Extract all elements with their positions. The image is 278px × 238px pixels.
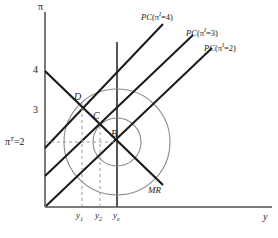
pc-curve-label-2: PC(πI=2): [204, 43, 236, 52]
x-tick-y2: y2: [95, 211, 102, 222]
pc-line-3: [45, 35, 193, 176]
pc-line-2: [46, 48, 212, 206]
point-label-b: B: [111, 129, 117, 139]
y-tick-target-inflation: πT=2: [5, 136, 25, 147]
y-tick-4: 4: [33, 65, 38, 75]
x-axis-label: y: [263, 212, 267, 222]
x-tick-y1: y1: [76, 211, 83, 222]
mr-curve-label: MR: [148, 186, 161, 195]
pc-curve-label-4: PC(πI=4): [141, 12, 173, 21]
point-label-c: C: [93, 111, 100, 121]
diagram-canvas: [0, 0, 278, 238]
pc-curve-label-3: PC(πI=3): [186, 28, 218, 37]
y-axis-label: π: [38, 2, 43, 12]
y-tick-3: 3: [33, 105, 38, 115]
phillips-curve-figure: π y 4 3 πT=2 y1 y2 ye D C B PC(πI=4): [0, 0, 278, 238]
x-tick-ye: ye: [113, 211, 120, 222]
point-label-d: D: [74, 92, 81, 102]
